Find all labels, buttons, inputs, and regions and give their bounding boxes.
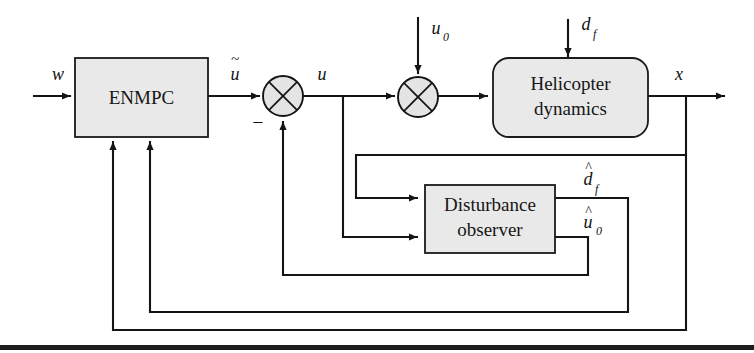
signal-label-u0-sub: 0 bbox=[443, 30, 449, 44]
block-observer-label-line1: Disturbance bbox=[444, 194, 536, 215]
block-diagram-figure: ENMPC Helicopter dynamics Disturbance ob… bbox=[0, 0, 754, 353]
wire-dfhat-to-enmpc bbox=[150, 142, 628, 312]
block-enmpc-label: ENMPC bbox=[109, 87, 174, 108]
block-helicopter-label-line2: dynamics bbox=[534, 98, 607, 119]
block-helicopter-label-line1: Helicopter bbox=[530, 73, 611, 94]
signal-label-u-tilde: u bbox=[231, 64, 240, 84]
signal-label-df-sub: f bbox=[593, 27, 598, 41]
diagram-canvas: ENMPC Helicopter dynamics Disturbance ob… bbox=[0, 0, 754, 353]
wire-u-branch-to-observer bbox=[343, 96, 417, 237]
signal-label-u0-base: u bbox=[432, 18, 441, 38]
signal-label-u0hat-sub: 0 bbox=[596, 224, 602, 238]
signal-label-dfhat-sub: f bbox=[595, 182, 600, 196]
signal-label-u: u bbox=[318, 64, 327, 84]
signal-label-df-base: d bbox=[582, 14, 592, 34]
signal-label-x: x bbox=[674, 64, 683, 84]
signal-label-minus: − bbox=[252, 111, 263, 133]
signal-label-w: w bbox=[52, 64, 64, 84]
figure-footer-rule bbox=[0, 345, 754, 350]
block-observer-label-line2: observer bbox=[457, 219, 523, 240]
signal-label-u-tilde-accent: ~ bbox=[231, 51, 239, 67]
